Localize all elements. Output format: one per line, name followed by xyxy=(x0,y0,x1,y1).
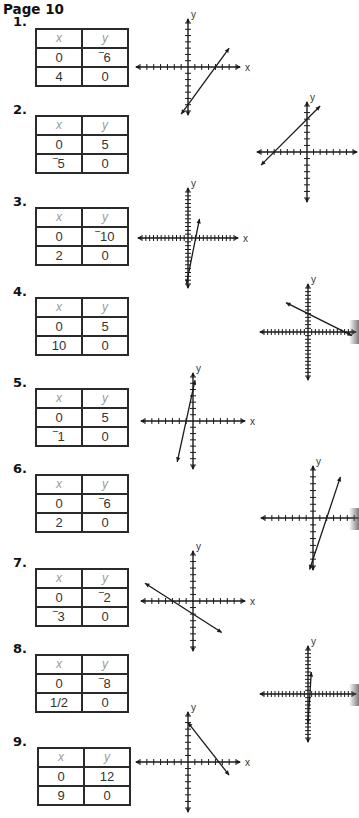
page-edge-shadow xyxy=(349,320,359,344)
svg-text:y: y xyxy=(191,702,196,713)
coordinate-graph: xy xyxy=(0,0,359,818)
svg-text:x: x xyxy=(245,757,250,768)
page-edge-shadow xyxy=(349,508,359,530)
page-edge-shadow xyxy=(349,684,359,706)
